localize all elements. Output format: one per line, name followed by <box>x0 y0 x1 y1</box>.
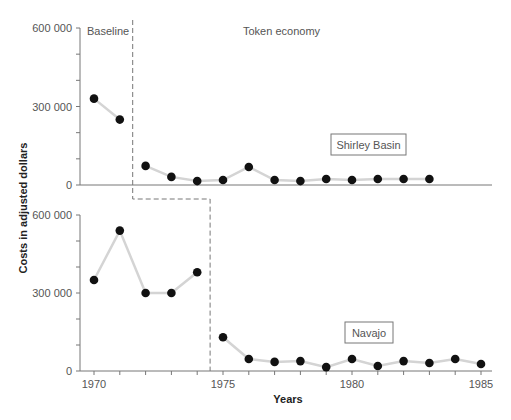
data-point <box>374 362 383 371</box>
y-tick-label: 300 000 <box>32 287 72 299</box>
data-point <box>270 358 279 367</box>
y-tick-label: 0 <box>66 179 72 191</box>
data-point <box>322 175 331 184</box>
x-tick-label: 1985 <box>469 378 493 390</box>
data-point <box>425 175 434 184</box>
series-label-text: Shirley Basin <box>336 139 400 151</box>
x-tick-label: 1970 <box>82 378 106 390</box>
data-point <box>141 289 150 298</box>
series-label-shirley-basin: Shirley Basin <box>331 134 406 155</box>
y-tick-label: 300 000 <box>32 101 72 113</box>
data-point <box>348 355 357 364</box>
data-point <box>193 177 202 186</box>
y-tick-label: 600 000 <box>32 22 72 34</box>
data-point <box>116 115 125 124</box>
x-axis-label: Years <box>273 393 302 405</box>
data-point <box>270 176 279 185</box>
y-tick-label: 600 000 <box>32 209 72 221</box>
data-point <box>399 357 408 366</box>
data-point <box>116 226 125 235</box>
x-tick-label: 1975 <box>211 378 235 390</box>
data-point <box>348 176 357 185</box>
data-point <box>374 175 383 184</box>
data-point <box>399 175 408 184</box>
data-point <box>90 276 99 285</box>
series-line <box>94 231 197 293</box>
series-line <box>146 166 430 181</box>
data-point <box>193 268 202 277</box>
data-point <box>167 289 176 298</box>
data-point <box>90 94 99 103</box>
data-point <box>219 176 228 185</box>
data-point <box>141 162 150 171</box>
y-axis-label: Costs in adjusted dollars <box>17 143 29 274</box>
data-point <box>322 363 331 372</box>
data-point <box>167 173 176 182</box>
series-line <box>94 99 120 120</box>
y-tick-label: 0 <box>66 365 72 377</box>
data-point <box>245 355 254 364</box>
data-point <box>451 355 460 364</box>
data-point <box>477 360 486 369</box>
series-label-text: Navajo <box>352 327 386 339</box>
phase-change-line <box>133 20 210 371</box>
data-point <box>296 357 305 366</box>
phase-label-baseline: Baseline <box>87 25 129 37</box>
data-point <box>425 359 434 368</box>
panel-navajo: 0300 000600 0001970197519801985 <box>32 209 493 390</box>
x-tick-label: 1980 <box>340 378 364 390</box>
data-point <box>219 333 228 342</box>
data-point <box>296 177 305 186</box>
panel-shirley-basin: 0300 000600 000 <box>32 22 492 191</box>
series-label-navajo: Navajo <box>345 322 393 343</box>
chart-canvas: 0300 000600 000 0300 000600 000197019751… <box>0 0 511 420</box>
data-point <box>245 163 254 172</box>
phase-label-token-economy: Token economy <box>243 25 321 37</box>
